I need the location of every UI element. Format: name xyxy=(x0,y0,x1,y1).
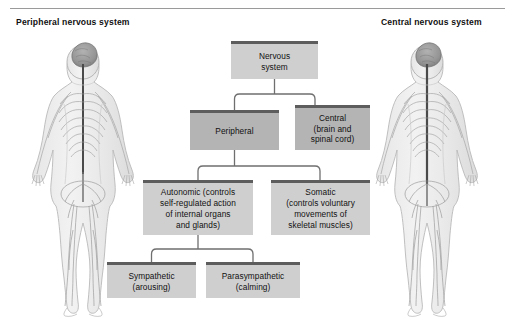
node-parasympathetic[interactable]: Parasympathetic(calming) xyxy=(206,262,300,298)
node-sympathetic[interactable]: Sympathetic(arousing) xyxy=(107,262,196,298)
node-nervous-system[interactable]: Nervoussystem xyxy=(231,41,318,79)
node-somatic-label: Somatic(controls voluntarymovements ofsk… xyxy=(282,187,359,231)
node-peripheral-label: Peripheral xyxy=(211,126,257,137)
node-autonomic[interactable]: Autonomic (controlsself-regulated action… xyxy=(143,180,253,235)
node-parasympathetic-label: Parasympathetic(calming) xyxy=(218,271,289,293)
node-sympathetic-label: Sympathetic(arousing) xyxy=(124,271,178,293)
caption-central-nervous-system: Central nervous system xyxy=(381,17,482,27)
caption-peripheral-nervous-system: Peripheral nervous system xyxy=(16,17,130,27)
human-body-central-nervous-system-icon xyxy=(368,34,486,318)
node-nervous-system-label: Nervoussystem xyxy=(255,51,294,73)
node-central[interactable]: Central(brain andspinal cord) xyxy=(295,105,370,150)
diagram-page: Peripheral nervous system Central nervou… xyxy=(0,0,513,325)
node-peripheral[interactable]: Peripheral xyxy=(190,110,279,150)
top-divider-rule xyxy=(10,8,505,9)
node-somatic[interactable]: Somatic(controls voluntarymovements ofsk… xyxy=(271,180,370,235)
node-central-label: Central(brain andspinal cord) xyxy=(307,113,359,146)
node-autonomic-label: Autonomic (controlsself-regulated action… xyxy=(156,187,240,231)
